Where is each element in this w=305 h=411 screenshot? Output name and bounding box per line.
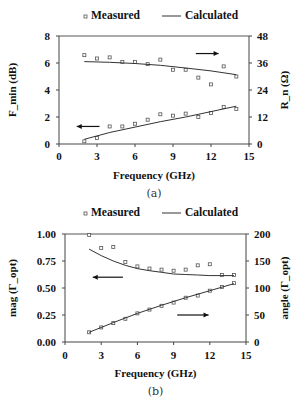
x-tick-label: 12 bbox=[206, 150, 218, 162]
measured-point bbox=[184, 112, 187, 115]
y-left-tick-label: 4 bbox=[45, 84, 51, 96]
calculated-line bbox=[89, 284, 234, 333]
legend: MeasuredCalculated bbox=[84, 206, 239, 218]
legend-measured-label: Measured bbox=[91, 206, 141, 218]
legend-calculated-label: Calculated bbox=[185, 9, 239, 21]
x-tick-label: 3 bbox=[98, 349, 104, 361]
x-tick-label: 12 bbox=[204, 349, 216, 361]
y-left-tick-label: 0.75 bbox=[37, 255, 57, 267]
measured-point bbox=[96, 57, 99, 60]
measured-point bbox=[235, 75, 238, 78]
legend-marker-icon bbox=[84, 212, 87, 215]
x-tick-label: 0 bbox=[56, 150, 62, 162]
y-left-tick-label: 0.50 bbox=[37, 282, 57, 294]
y-left-tick-label: 0.25 bbox=[37, 309, 57, 321]
panel-caption: (b) bbox=[148, 385, 164, 398]
measured-point bbox=[196, 264, 199, 267]
measured-point bbox=[172, 68, 175, 71]
measured-point bbox=[100, 247, 103, 250]
y-right-tick-label: 48 bbox=[257, 30, 269, 42]
measured-point bbox=[108, 125, 111, 128]
x-tick-label: 15 bbox=[241, 349, 253, 361]
y-left-tick-label: 6 bbox=[45, 57, 51, 69]
measured-point bbox=[124, 261, 127, 264]
x-axis-label: Frequency (GHz) bbox=[113, 169, 195, 182]
measured-point bbox=[172, 269, 175, 272]
chart-b: MeasuredCalculated036912150.000.250.500.… bbox=[6, 206, 291, 398]
y-right-tick-label: 50 bbox=[254, 309, 266, 321]
measured-point bbox=[83, 140, 86, 143]
x-tick-label: 6 bbox=[135, 349, 141, 361]
y-right-tick-label: 0 bbox=[257, 138, 263, 150]
legend-marker-icon bbox=[84, 15, 87, 18]
y-left-axis-label: F_min (dB) bbox=[6, 63, 19, 117]
measured-point bbox=[112, 245, 115, 248]
measured-point bbox=[159, 58, 162, 61]
x-tick-label: 3 bbox=[94, 150, 100, 162]
measured-point bbox=[146, 118, 149, 121]
measured-point bbox=[222, 65, 225, 68]
y-left-tick-label: 8 bbox=[45, 30, 51, 42]
measured-point bbox=[96, 136, 99, 139]
measured-point bbox=[197, 116, 200, 119]
measured-point bbox=[208, 263, 211, 266]
measured-point bbox=[172, 114, 175, 117]
measured-point bbox=[136, 265, 139, 268]
y-right-tick-label: 12 bbox=[257, 111, 269, 123]
x-tick-label: 6 bbox=[132, 150, 138, 162]
calculated-line bbox=[89, 249, 234, 276]
arrow-right-icon bbox=[214, 51, 219, 56]
panel-caption: (a) bbox=[146, 187, 161, 200]
x-tick-label: 9 bbox=[170, 150, 176, 162]
x-tick-label: 9 bbox=[171, 349, 177, 361]
measured-point bbox=[222, 105, 225, 108]
y-right-tick-label: 0 bbox=[254, 336, 260, 348]
legend: MeasuredCalculated bbox=[84, 9, 239, 21]
y-left-tick-label: 1.00 bbox=[37, 228, 57, 240]
legend-measured-label: Measured bbox=[91, 9, 141, 21]
measured-point bbox=[210, 83, 213, 86]
measured-point bbox=[184, 68, 187, 71]
y-right-axis-label: R_n (Ω) bbox=[278, 70, 291, 109]
measured-point bbox=[148, 267, 151, 270]
measured-point bbox=[134, 122, 137, 125]
measured-point bbox=[184, 268, 187, 271]
calculated-line bbox=[84, 106, 236, 139]
measured-point bbox=[83, 54, 86, 57]
legend-calculated-label: Calculated bbox=[185, 206, 239, 218]
y-right-tick-label: 24 bbox=[257, 84, 269, 96]
x-axis-label: Frequency (GHz) bbox=[115, 367, 197, 380]
measured-point bbox=[88, 234, 91, 237]
measured-point bbox=[159, 113, 162, 116]
y-right-axis-label: angle (Γ_opt) bbox=[278, 256, 291, 319]
figure: MeasuredCalculated0369121502468012243648… bbox=[0, 0, 305, 411]
x-tick-label: 0 bbox=[62, 349, 68, 361]
y-left-tick-label: 2 bbox=[45, 111, 51, 123]
y-left-axis-label: mag (Γ_opt) bbox=[6, 259, 19, 317]
calculated-line bbox=[84, 62, 236, 75]
arrow-right-icon bbox=[204, 313, 209, 318]
y-right-tick-label: 150 bbox=[254, 255, 271, 267]
y-right-tick-label: 36 bbox=[257, 57, 269, 69]
y-right-tick-label: 100 bbox=[254, 282, 271, 294]
measured-point bbox=[134, 60, 137, 63]
measured-point bbox=[108, 56, 111, 59]
measured-point bbox=[235, 107, 238, 110]
arrow-left-icon bbox=[93, 275, 98, 280]
x-tick-label: 15 bbox=[244, 150, 256, 162]
y-left-tick-label: 0 bbox=[45, 138, 51, 150]
measured-point bbox=[160, 268, 163, 271]
arrow-left-icon bbox=[77, 124, 82, 129]
y-left-tick-label: 0.00 bbox=[37, 336, 57, 348]
y-right-tick-label: 200 bbox=[254, 228, 271, 240]
chart-a: MeasuredCalculated0369121502468012243648… bbox=[6, 9, 291, 200]
measured-point bbox=[121, 125, 124, 128]
measured-point bbox=[197, 76, 200, 79]
